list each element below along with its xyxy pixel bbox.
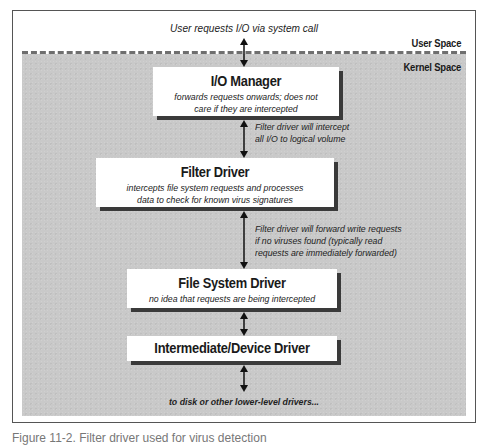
box-title: Filter Driver xyxy=(106,164,325,180)
bidirectional-arrow-icon xyxy=(240,312,248,336)
box-description: intercepts file system requests and proc… xyxy=(106,182,325,194)
box-title: I/O Manager xyxy=(160,73,331,89)
bidirectional-arrow-icon xyxy=(240,120,248,158)
box-description: forwards requests onwards; does not xyxy=(160,91,331,103)
note-line: requests are immediately forwarded) xyxy=(255,247,402,259)
box-title: Intermediate/Device Driver xyxy=(135,340,328,356)
box-description: no idea that requests are being intercep… xyxy=(135,293,328,305)
edge-note-intercept: Filter driver will intercept all I/O to … xyxy=(255,121,349,145)
user-space-label: User Space xyxy=(411,37,461,49)
bidirectional-arrow-icon xyxy=(240,211,248,269)
io-manager-box: I/O Manager forwards requests onwards; d… xyxy=(153,67,339,116)
box-description: care if they are intercepted xyxy=(160,103,331,115)
bottom-caption: to disk or other lower-level drivers... xyxy=(31,396,456,407)
file-system-driver-box: File System Driver no idea that requests… xyxy=(127,269,337,308)
box-title: File System Driver xyxy=(135,275,328,291)
bidirectional-arrow-icon xyxy=(240,365,248,392)
top-caption: User requests I/O via system call xyxy=(31,22,456,34)
box-description: data to check for known virus signatures xyxy=(106,194,325,206)
figure-caption: Figure 11-2. Filter driver used for viru… xyxy=(12,431,267,445)
note-line: Filter driver will forward write request… xyxy=(255,223,402,235)
device-driver-box: Intermediate/Device Driver xyxy=(127,336,337,361)
edge-note-forward: Filter driver will forward write request… xyxy=(255,223,402,259)
kernel-space-label: Kernel Space xyxy=(403,61,461,73)
diagram-frame: User requests I/O via system call User S… xyxy=(12,10,476,423)
note-line: all I/O to logical volume xyxy=(255,133,349,145)
filter-driver-box: Filter Driver intercepts file system req… xyxy=(96,158,334,207)
note-line: if no viruses found (typically read xyxy=(255,235,402,247)
bidirectional-arrow-icon xyxy=(240,38,248,67)
note-line: Filter driver will intercept xyxy=(255,121,349,133)
